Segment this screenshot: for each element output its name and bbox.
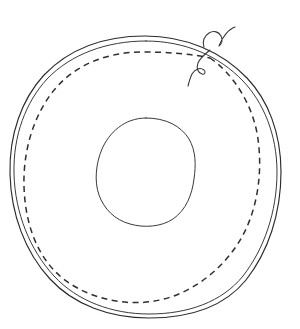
figure-background xyxy=(0,0,300,329)
ring-diagram-svg xyxy=(0,0,300,329)
figure-root xyxy=(0,0,300,329)
